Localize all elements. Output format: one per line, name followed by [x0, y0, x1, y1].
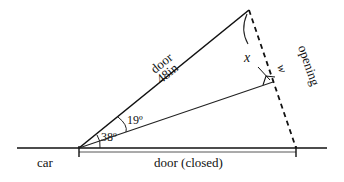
door-closed-label: door (closed) [154, 155, 223, 170]
angle-19-label: 19º [127, 113, 143, 127]
angle-19-arc [118, 117, 126, 132]
w-tick [258, 67, 270, 80]
opening-label: opening [295, 43, 323, 88]
angle-38-label: 38º [101, 130, 117, 144]
opening-dashed-line [249, 10, 296, 148]
door-opening-diagram: door 48in opening x w 19º 38º car door (… [0, 0, 344, 182]
car-label: car [37, 155, 54, 170]
angle-x-label: x [243, 50, 251, 65]
side-w-label: w [274, 62, 290, 74]
angle-x-arc [244, 14, 248, 44]
